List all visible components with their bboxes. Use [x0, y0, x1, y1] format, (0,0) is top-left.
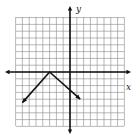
- coordinate-plane: [0, 0, 133, 136]
- axes: [5, 6, 131, 134]
- function-graph: [22, 72, 80, 103]
- x-axis-label: x: [126, 82, 131, 92]
- y-axis-label: y: [76, 4, 81, 14]
